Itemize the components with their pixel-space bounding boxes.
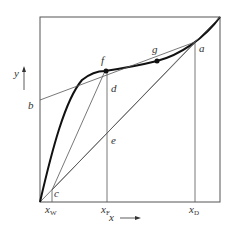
stripping-line [52,71,105,190]
x-arrow-icon [135,216,141,220]
operating-line [52,42,195,190]
label-g: g [152,43,158,55]
label-c: c [54,187,59,199]
point-g [155,59,160,64]
tick-xw: xW [44,203,57,217]
tick-xf: xF [100,203,110,217]
point-f [104,69,109,74]
tangent-line [40,42,195,100]
tick-xd: xD [188,203,199,217]
label-b: b [28,99,34,111]
a-segment [195,17,220,42]
y-axis-label: y [13,67,19,79]
xy-diagram: f g a b d e c y x xW xF xD [0,0,236,235]
label-e: e [111,134,116,146]
label-d: d [111,82,117,94]
y-arrow-icon [22,66,26,72]
label-f: f [101,54,106,66]
label-a: a [199,42,205,54]
